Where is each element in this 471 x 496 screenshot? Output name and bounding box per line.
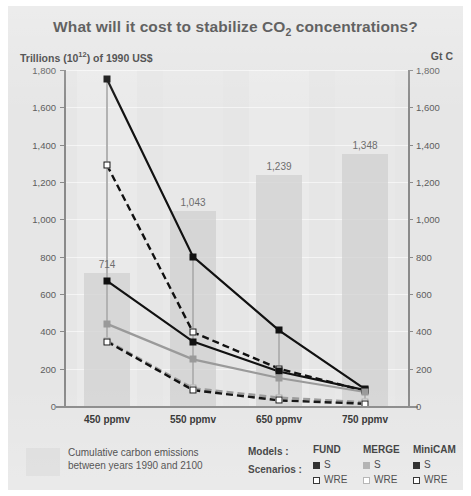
legend-marker-wre xyxy=(313,477,320,484)
data-point-marker xyxy=(276,327,283,334)
legend-label-s: S xyxy=(424,459,431,470)
y-tick-left xyxy=(60,182,64,183)
y-tick-left xyxy=(60,294,64,295)
y-axis-left xyxy=(64,70,66,406)
x-tick-label: 750 ppmv xyxy=(342,414,388,425)
y-tick-label-right: 800 xyxy=(416,251,456,262)
y-tick-label-left: 1,200 xyxy=(18,177,56,188)
x-tick-label: 450 ppmv xyxy=(84,414,130,425)
chart-page: What will it cost to stabilize CO2 conce… xyxy=(0,0,471,496)
y-tick-label-right: 200 xyxy=(416,363,456,374)
y-tick-left xyxy=(60,145,64,146)
plot-area: 7141,0431,2391,348 xyxy=(64,70,408,406)
legend-label-wre: WRE xyxy=(324,474,347,485)
data-point-marker xyxy=(104,277,111,284)
series-line xyxy=(107,281,365,390)
legend-marker-wre xyxy=(363,477,370,484)
legend-marker-s xyxy=(413,462,420,469)
data-point-marker xyxy=(190,329,197,336)
y-tick-right xyxy=(409,107,413,108)
y-tick-label-right: 1,000 xyxy=(416,214,456,225)
y-tick-left xyxy=(60,219,64,220)
legend-label-s: S xyxy=(324,459,331,470)
y-tick-label-left: 800 xyxy=(18,251,56,262)
emissions-swatch xyxy=(26,448,60,476)
y-tick-label-left: 600 xyxy=(18,289,56,300)
data-point-marker xyxy=(104,320,111,327)
emissions-caption-line2: between years 1990 and 2100 xyxy=(68,460,203,473)
emission-bar-label: 714 xyxy=(99,259,116,270)
data-point-marker xyxy=(362,389,369,396)
emissions-caption: Cumulative carbon emissions between year… xyxy=(68,447,203,472)
y-tick-left xyxy=(60,331,64,332)
legend-model-name: MERGE xyxy=(363,444,400,455)
y-axis-caption-left-b: ) of 1990 US$ xyxy=(87,52,153,64)
series-lines xyxy=(64,70,408,406)
y-tick-label-right: 0 xyxy=(416,401,456,412)
legend-label-s: S xyxy=(374,459,381,470)
legend-entry-wre[interactable]: WRE xyxy=(313,474,347,485)
data-point-marker xyxy=(276,375,283,382)
y-tick-right xyxy=(409,369,413,370)
emission-bar-label: 1,348 xyxy=(352,140,377,151)
y-tick-label-right: 1,200 xyxy=(416,177,456,188)
data-point-marker xyxy=(104,338,111,345)
y-tick-label-left: 1,600 xyxy=(18,102,56,113)
data-point-marker xyxy=(190,253,197,260)
legend-entry-s[interactable]: S xyxy=(313,459,331,470)
y-tick-label-left: 1,400 xyxy=(18,139,56,150)
y-tick-label-right: 400 xyxy=(416,326,456,337)
emission-bar-label: 1,239 xyxy=(266,161,291,172)
data-point-marker xyxy=(276,397,283,404)
legend-marker-s xyxy=(363,462,370,469)
legend-label-wre: WRE xyxy=(374,474,397,485)
data-point-marker xyxy=(104,162,111,169)
data-point-marker xyxy=(190,356,197,363)
legend-entry-s[interactable]: S xyxy=(413,459,431,470)
y-tick-right xyxy=(409,219,413,220)
y-tick-left xyxy=(60,107,64,108)
x-tick-label: 650 ppmv xyxy=(256,414,302,425)
y-tick-right xyxy=(409,145,413,146)
y-tick-label-right: 600 xyxy=(416,289,456,300)
chart-title-tail: concentrations? xyxy=(291,18,417,35)
data-point-marker xyxy=(190,338,197,345)
y-axis-right xyxy=(408,70,410,406)
y-tick-left xyxy=(60,369,64,370)
legend-marker-wre xyxy=(413,477,420,484)
y-tick-left xyxy=(60,70,64,71)
y-axis-caption-left-exponent: 12 xyxy=(78,50,86,59)
y-tick-right xyxy=(409,294,413,295)
chart-title: What will it cost to stabilize CO2 conce… xyxy=(8,18,463,38)
y-tick-right xyxy=(409,331,413,332)
chart-legend: Cumulative carbon emissions between year… xyxy=(8,438,463,494)
y-tick-right xyxy=(409,182,413,183)
legend-scenarios-label: Scenarios : xyxy=(248,464,302,475)
y-tick-right xyxy=(409,70,413,71)
y-tick-label-right: 1,800 xyxy=(416,65,456,76)
y-tick-left xyxy=(60,406,64,407)
data-point-marker xyxy=(190,387,197,394)
y-tick-label-left: 1,800 xyxy=(18,65,56,76)
legend-entry-s[interactable]: S xyxy=(363,459,381,470)
y-axis-caption-right: Gt C xyxy=(431,50,453,62)
y-tick-label-right: 1,400 xyxy=(416,139,456,150)
y-axis-caption-left-a: Trillions (10 xyxy=(20,52,78,64)
legend-entry-wre[interactable]: WRE xyxy=(363,474,397,485)
y-tick-label-left: 400 xyxy=(18,326,56,337)
y-tick-label-left: 1,000 xyxy=(18,214,56,225)
y-tick-left xyxy=(60,257,64,258)
emission-bar-label: 1,043 xyxy=(180,197,205,208)
x-axis xyxy=(56,406,418,408)
legend-model-name: FUND xyxy=(313,444,341,455)
legend-label-wre: WRE xyxy=(424,474,447,485)
y-tick-right xyxy=(409,257,413,258)
legend-marker-s xyxy=(313,462,320,469)
series-line xyxy=(107,79,365,389)
legend-entry-wre[interactable]: WRE xyxy=(413,474,447,485)
y-tick-right xyxy=(409,406,413,407)
y-axis-caption-left: Trillions (1012) of 1990 US$ xyxy=(20,50,153,64)
chart-canvas: What will it cost to stabilize CO2 conce… xyxy=(8,6,463,490)
legend-models-label: Models : xyxy=(248,446,289,457)
legend-model-name: MiniCAM xyxy=(413,444,456,455)
